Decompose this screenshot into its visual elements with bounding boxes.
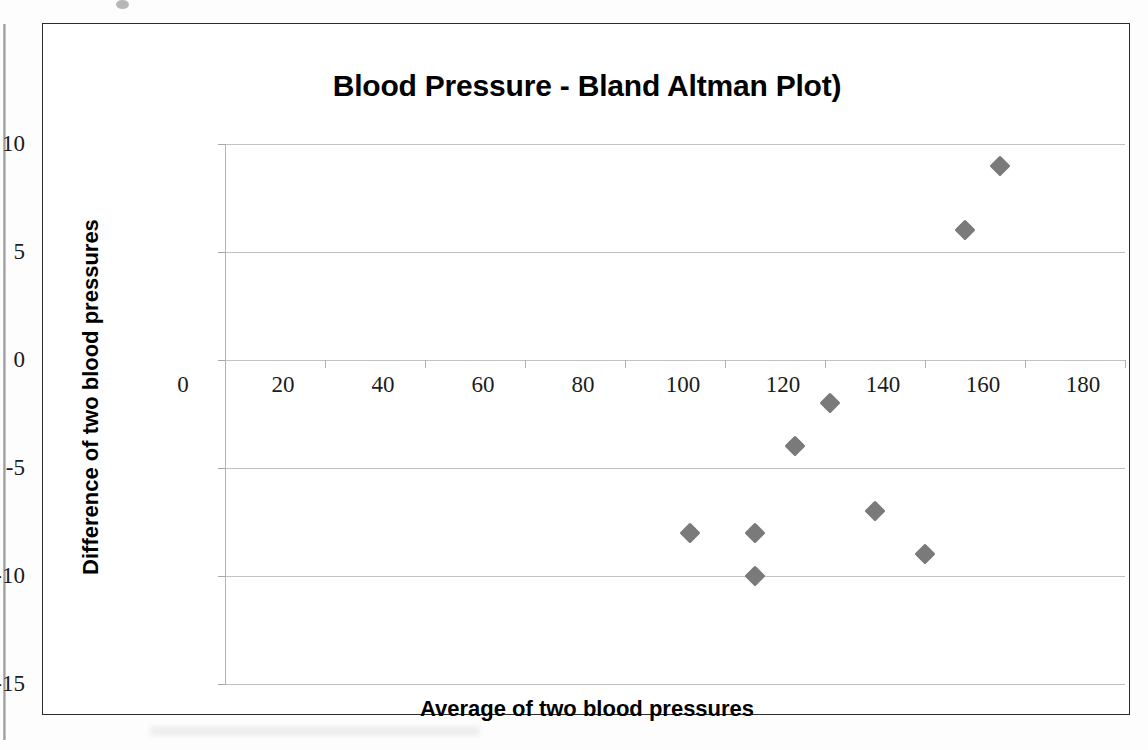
y-tick-label: -10 <box>0 563 25 589</box>
x-tick-label: 60 <box>472 372 495 398</box>
data-point <box>679 522 700 543</box>
x-tick-label: 20 <box>272 372 295 398</box>
x-tick-label: 100 <box>666 372 701 398</box>
chart-title: Blood Pressure - Bland Altman Plot) <box>43 69 1131 103</box>
y-tick-mark--15 <box>218 684 226 685</box>
y-axis-title: Difference of two blood pressures <box>78 137 104 657</box>
data-point <box>954 220 975 241</box>
data-point <box>864 501 885 522</box>
x-tick-mark-0 <box>225 360 226 368</box>
x-tick-mark-20 <box>325 360 326 368</box>
x-tick-label: 0 <box>177 372 189 398</box>
data-point <box>914 544 935 565</box>
x-tick-mark-80 <box>625 360 626 368</box>
x-tick-mark-160 <box>1025 360 1026 368</box>
x-tick-mark-120 <box>825 360 826 368</box>
y-tick-label: 0 <box>0 347 25 373</box>
y-tick-mark-5 <box>218 252 226 253</box>
x-tick-mark-60 <box>525 360 526 368</box>
data-point <box>989 155 1010 176</box>
plot-area <box>225 144 1125 684</box>
x-axis-title: Average of two blood pressures <box>43 696 1131 722</box>
x-tick-label: 120 <box>766 372 801 398</box>
y-tick-label: -15 <box>0 671 25 697</box>
data-point <box>784 436 805 457</box>
x-tick-label: 160 <box>966 372 1001 398</box>
gridline-y-5 <box>225 252 1125 253</box>
scan-speck-artifact <box>116 0 129 9</box>
x-tick-mark-140 <box>925 360 926 368</box>
y-tick-label: 10 <box>0 131 25 157</box>
x-tick-label: 80 <box>572 372 595 398</box>
x-tick-mark-180 <box>1125 360 1126 368</box>
x-tick-label: 40 <box>372 372 395 398</box>
data-point <box>819 393 840 414</box>
y-tick-label: -5 <box>0 455 25 481</box>
data-point <box>744 565 765 586</box>
x-tick-mark-40 <box>425 360 426 368</box>
y-tick-mark-10 <box>218 144 226 145</box>
y-tick-label: 5 <box>0 239 25 265</box>
gridline-y--15 <box>225 684 1125 685</box>
x-tick-mark-100 <box>725 360 726 368</box>
scan-smudge-artifact <box>150 726 480 736</box>
gridline-y-0 <box>225 360 1125 361</box>
gridline-y--5 <box>225 468 1125 469</box>
y-tick-mark--10 <box>218 576 226 577</box>
gridline-y--10 <box>225 576 1125 577</box>
x-tick-label: 180 <box>1066 372 1101 398</box>
gridline-y-10 <box>225 144 1125 145</box>
data-point <box>744 522 765 543</box>
y-tick-mark--5 <box>218 468 226 469</box>
x-tick-label: 140 <box>866 372 901 398</box>
chart-frame: Blood Pressure - Bland Altman Plot) Diff… <box>42 23 1130 715</box>
